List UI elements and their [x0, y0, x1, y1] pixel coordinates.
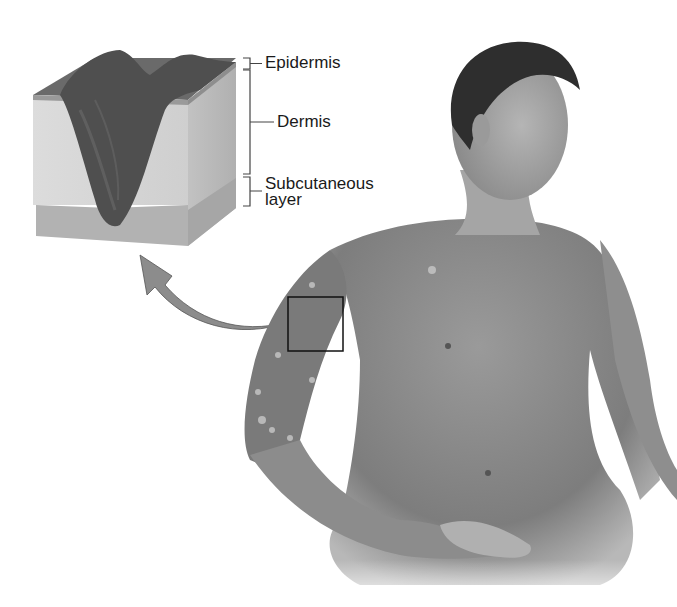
label-dermis: Dermis — [277, 114, 331, 130]
label-epidermis: Epidermis — [265, 55, 341, 71]
callout-arrow — [140, 255, 288, 330]
skin-layer-diagram: Epidermis Dermis Subcutaneous layer — [0, 0, 677, 607]
label-subcutaneous-line2: layer — [265, 192, 374, 208]
skin-block — [33, 50, 236, 246]
label-subcutaneous: Subcutaneous layer — [265, 176, 374, 208]
illustration — [0, 0, 677, 607]
